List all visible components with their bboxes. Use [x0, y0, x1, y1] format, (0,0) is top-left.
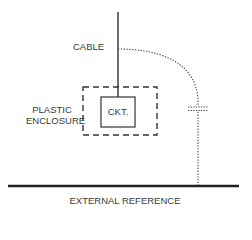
circuit-label: CKT. [101, 106, 135, 117]
capacitor-icon [186, 106, 210, 111]
external-reference-label: EXTERNAL REFERENCE [40, 195, 210, 206]
enclosure-label-line2: ENCLOSURE [26, 115, 78, 126]
enclosure-label-line1: PLASTIC [26, 104, 78, 115]
enclosure-label: PLASTIC ENCLOSURE [26, 104, 78, 126]
cable-label: CABLE [73, 41, 104, 52]
